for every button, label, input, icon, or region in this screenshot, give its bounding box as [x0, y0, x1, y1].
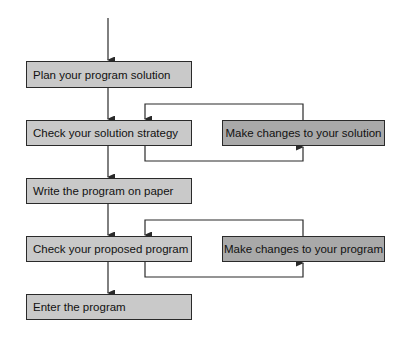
connector-lines — [0, 0, 402, 337]
step-label: Enter the program — [33, 301, 126, 313]
side-step-change-program: Make changes to your program — [222, 236, 385, 262]
side-step-label: Make changes to your program — [224, 243, 383, 255]
step-label: Write the program on paper — [33, 185, 173, 197]
step-label: Check your proposed program — [33, 243, 188, 255]
flowchart-canvas: Plan your program solution Check your so… — [0, 0, 402, 337]
side-step-label: Make changes to your solution — [226, 127, 382, 139]
step-check-strategy: Check your solution strategy — [26, 120, 192, 146]
step-plan-solution: Plan your program solution — [26, 61, 192, 88]
side-step-change-solution: Make changes to your solution — [222, 120, 385, 146]
step-enter-program: Enter the program — [26, 294, 192, 320]
step-label: Check your solution strategy — [33, 127, 178, 139]
step-label: Plan your program solution — [33, 69, 170, 81]
step-check-program: Check your proposed program — [26, 236, 192, 262]
step-write-program: Write the program on paper — [26, 178, 192, 204]
